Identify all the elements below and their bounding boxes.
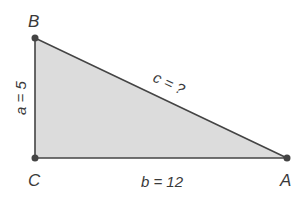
side-a-label: a = 5 [12,80,29,114]
vertex-c-dot [32,155,39,162]
vertex-c-label: C [28,171,41,190]
side-b-label: b = 12 [141,173,184,190]
vertex-a-dot [284,155,291,162]
vertex-b-dot [32,35,39,42]
side-c-label: c = ? [151,68,189,98]
vertex-b-label: B [28,12,39,31]
triangle-shape [35,38,287,158]
triangle-diagram: B C A a = 5 b = 12 c = ? [0,0,299,199]
vertex-a-label: A [279,171,291,190]
